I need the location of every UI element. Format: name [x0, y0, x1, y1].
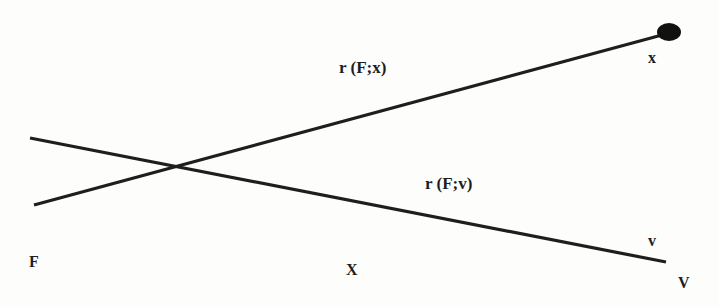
endpoint-dot-x	[657, 23, 681, 41]
label-point-v: v	[648, 233, 656, 249]
label-point-X: X	[346, 262, 358, 278]
label-point-F: F	[29, 254, 39, 270]
label-point-V: V	[678, 275, 690, 291]
line-r-F-v	[30, 138, 666, 262]
label-r-F-v: r (F;v)	[425, 175, 472, 192]
diagram-canvas: r (F;x) x r (F;v) v V F X	[0, 0, 719, 307]
label-point-x: x	[648, 50, 656, 66]
diagram-lines	[0, 0, 719, 307]
label-r-F-x: r (F;x)	[339, 59, 386, 76]
